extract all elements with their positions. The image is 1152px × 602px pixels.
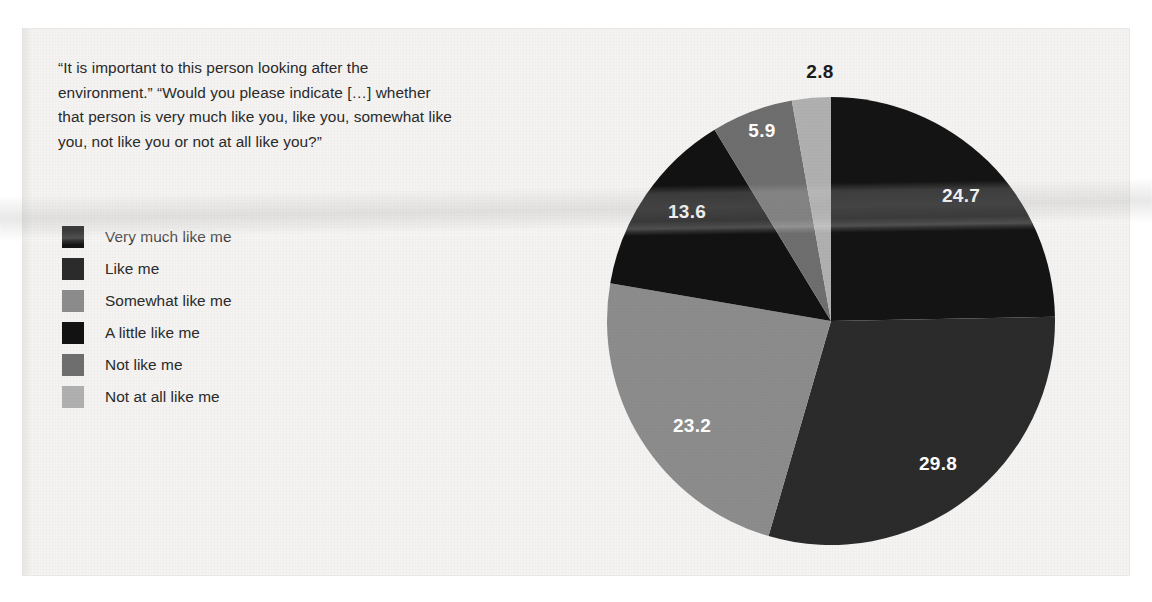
chart-page: “It is important to this person looking …: [0, 0, 1152, 602]
pie-slice-value-label: 24.7: [942, 185, 980, 207]
pie-chart: 24.729.823.213.65.92.8: [0, 0, 1152, 602]
pie-slice-value-label: 13.6: [668, 201, 706, 223]
pie-slice[interactable]: [831, 97, 1055, 321]
pie-slice-value-label: 23.2: [673, 415, 711, 437]
pie-slice-value-label: 29.8: [919, 453, 957, 475]
pie-chart-svg: [0, 0, 1152, 602]
pie-slice-value-label: 5.9: [748, 120, 775, 142]
pie-slice-value-label: 2.8: [806, 61, 833, 83]
